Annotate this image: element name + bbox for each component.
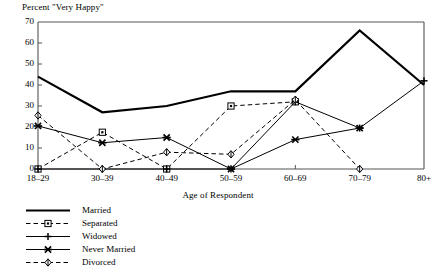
data-point-marker	[163, 134, 171, 140]
square-marker-core	[47, 222, 49, 224]
series-line	[38, 126, 360, 169]
y-tick-label: 50	[16, 58, 34, 68]
legend-key-swatch	[20, 216, 76, 229]
square-marker-core	[101, 131, 103, 133]
series-married	[38, 30, 424, 112]
legend-label: Married	[82, 205, 111, 215]
y-tick-label: 20	[16, 121, 34, 131]
y-tick-label: 0	[16, 163, 34, 173]
data-point-marker	[45, 259, 51, 266]
legend-label: Never Married	[82, 244, 135, 254]
data-point-marker	[164, 149, 170, 156]
legend-key-swatch	[20, 255, 76, 268]
series-line	[38, 30, 424, 112]
legend-item-married[interactable]: Married	[20, 203, 135, 216]
legend-key-swatch	[20, 203, 76, 216]
data-point-marker	[291, 137, 299, 143]
data-point-marker	[45, 220, 51, 226]
x-tick-label: 60–69	[265, 173, 325, 183]
data-point-marker	[44, 246, 52, 252]
legend-label: Widowed	[82, 231, 117, 241]
series-divorced	[35, 96, 363, 173]
legend-item-divorced[interactable]: Divorced	[20, 255, 135, 268]
chart-legend: MarriedSeparatedWidowedNever MarriedDivo…	[20, 203, 135, 268]
y-tick-label: 60	[16, 37, 34, 47]
legend-key-swatch	[20, 229, 76, 242]
data-point-marker	[228, 103, 234, 109]
x-axis-label: Age of Respondent	[0, 190, 436, 200]
data-point-marker	[99, 165, 105, 172]
legend-label: Separated	[82, 218, 117, 228]
y-tick-label: 10	[16, 142, 34, 152]
x-tick-label: 40–49	[137, 173, 197, 183]
data-point-marker	[45, 233, 52, 240]
y-tick-label: 40	[16, 79, 34, 89]
legend-item-separated[interactable]: Separated	[20, 216, 135, 229]
legend-label: Divorced	[82, 257, 116, 267]
data-point-marker	[35, 112, 41, 119]
square-marker-core	[230, 105, 232, 107]
series-line	[38, 102, 295, 169]
series-never-married	[34, 123, 364, 172]
legend-item-never-married[interactable]: Never Married	[20, 242, 135, 255]
x-tick-label: 18–29	[8, 173, 68, 183]
data-point-marker	[99, 129, 105, 135]
data-point-marker	[98, 140, 106, 146]
x-tick-label: 50–59	[201, 173, 261, 183]
x-tick-label: 70–79	[330, 173, 390, 183]
chart-container: Percent "Very Happy" 010203040506070 18–…	[0, 0, 436, 271]
y-tick-label: 70	[16, 16, 34, 26]
x-tick-label: 30–39	[72, 173, 132, 183]
x-tick-label: 80+	[394, 173, 436, 183]
legend-key-swatch	[20, 242, 76, 255]
data-point-marker	[228, 151, 234, 158]
series-line	[38, 100, 360, 169]
y-tick-label: 30	[16, 100, 34, 110]
legend-item-widowed[interactable]: Widowed	[20, 229, 135, 242]
